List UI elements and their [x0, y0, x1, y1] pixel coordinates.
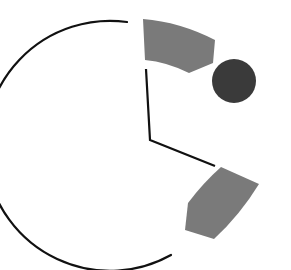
segment-bottom: [185, 167, 259, 239]
segment-top: [143, 19, 215, 73]
dot-circle: [212, 59, 256, 103]
clock-hands: [146, 69, 215, 166]
clock-diagram: [0, 0, 291, 270]
